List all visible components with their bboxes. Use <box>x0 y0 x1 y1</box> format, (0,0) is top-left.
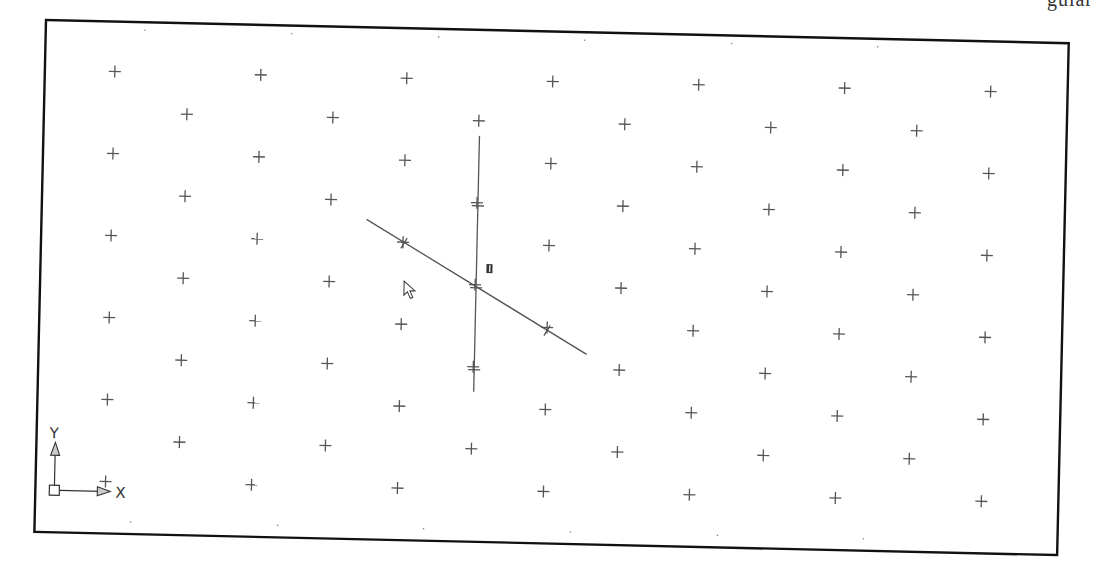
ucs-y-label: Y <box>48 424 59 442</box>
cad-drawing-area[interactable]: gular <box>0 0 1095 580</box>
cropped-title-fragment: gular <box>1047 0 1093 11</box>
rotated-drawing-group: Y X <box>34 20 1068 555</box>
iso-label-icon <box>486 264 492 273</box>
viewport-frame <box>34 20 1068 555</box>
ucs-origin-square <box>49 485 59 495</box>
drawing-canvas[interactable]: Y X <box>0 0 1095 580</box>
ucs-x-label: X <box>115 484 126 502</box>
